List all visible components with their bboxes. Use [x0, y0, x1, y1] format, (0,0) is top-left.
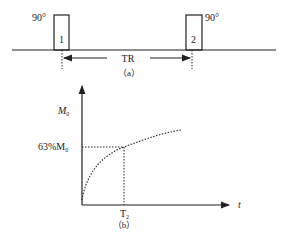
x-axis-label: t	[238, 199, 241, 210]
tr-label: TR	[122, 53, 135, 64]
level-63-label: 63%M0	[38, 141, 68, 153]
t2-label: T2	[120, 208, 129, 220]
pulse-1-number: 1	[59, 34, 64, 45]
pulse-1-angle: 90°	[32, 12, 46, 23]
caption-b: （b）	[113, 220, 136, 230]
pulse-2-angle: 90°	[205, 12, 219, 23]
pulse-sequence-diagram: 90° 90° 1 2 TR （a）	[12, 12, 276, 78]
y-axis-label: M0	[57, 105, 69, 117]
caption-a: （a）	[118, 68, 140, 78]
pulse-2-number: 2	[191, 34, 196, 45]
diagram-canvas: 90° 90° 1 2 TR （a） M0 63%M0 t T2 （b）	[0, 0, 282, 235]
recovery-curve	[82, 130, 181, 200]
recovery-curve-diagram: M0 63%M0 t T2 （b）	[38, 86, 241, 230]
